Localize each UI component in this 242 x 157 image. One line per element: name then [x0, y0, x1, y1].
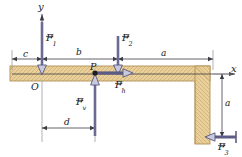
vector-arrow-icon: [122, 33, 130, 38]
dimension-label-a-right: a: [225, 99, 230, 108]
vector-arrow-icon: [115, 80, 123, 85]
dimension-label-b: b: [76, 48, 82, 57]
dimension-label-c: c: [23, 50, 28, 59]
force-label-F1: F1: [46, 33, 57, 46]
figure-canvas: y x O P c b a d a F1 F2 F3 Fh Fv: [0, 0, 242, 157]
dimension-label-d: d: [64, 118, 70, 127]
force-label-F2-sub: 2: [128, 40, 132, 48]
bracket-body: [10, 66, 210, 144]
x-axis-label: x: [231, 64, 237, 74]
force-vector-F1: [38, 22, 47, 75]
force-label-F3-sub: 3: [224, 149, 228, 157]
force-label-F2: F2: [122, 33, 133, 46]
bracket-vertical-arm: [195, 66, 210, 144]
force-label-Fv-sub: v: [82, 104, 86, 112]
vector-arrow-icon: [46, 33, 54, 38]
force-label-Fh: Fh: [115, 80, 126, 93]
origin-label: O: [31, 82, 39, 92]
vector-arrow-icon: [76, 97, 84, 102]
y-axis-label: y: [38, 2, 44, 12]
dimension-label-a-top: a: [161, 49, 166, 58]
force-label-Fh-sub: h: [121, 87, 125, 95]
force-vector-Fv: [91, 74, 100, 136]
force-label-Fv: Fv: [76, 97, 87, 110]
vector-arrow-icon: [218, 142, 226, 147]
force-label-F1-sub: 1: [52, 40, 56, 48]
force-label-F3: F3: [218, 142, 229, 155]
point-label-P: P: [90, 62, 96, 72]
